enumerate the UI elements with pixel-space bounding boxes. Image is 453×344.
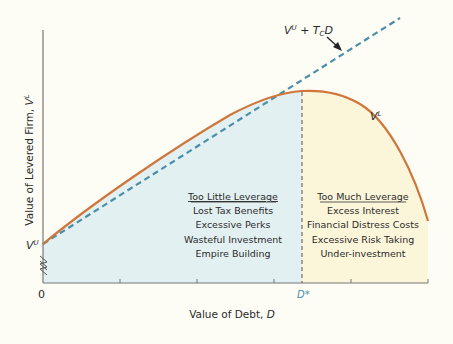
- too-much-leverage-text: Too Much Leverage Excess Interest Financ…: [307, 191, 419, 259]
- right-region-title: Too Much Leverage: [316, 191, 409, 202]
- right-region-item: Financial Distress Costs: [307, 219, 419, 230]
- left-region-item: Lost Tax Benefits: [193, 205, 273, 216]
- right-region-item: Under-investment: [320, 248, 405, 259]
- left-region-item: Excessive Perks: [195, 219, 270, 230]
- x-axis-title: Value of Debt, D: [189, 308, 275, 320]
- left-region-item: Wasteful Investment: [184, 234, 282, 245]
- too-little-leverage-text: Too Little Leverage Lost Tax Benefits Ex…: [184, 191, 282, 259]
- y-axis-title: Value of Levered Firm, VL: [23, 94, 35, 225]
- right-region-item: Excessive Risk Taking: [312, 234, 415, 245]
- left-region-item: Empire Building: [195, 248, 270, 259]
- dashed-line-label: VU + TCD: [284, 24, 333, 38]
- tradeoff-chart: VU + TCD VL VU 0 D* Value of Debt, D Val…: [0, 0, 453, 344]
- right-region-item: Excess Interest: [327, 205, 399, 216]
- left-region-title: Too Little Leverage: [187, 191, 278, 202]
- origin-label: 0: [38, 288, 45, 301]
- vu-label: VU: [26, 239, 39, 252]
- dstar-label: D*: [297, 289, 310, 300]
